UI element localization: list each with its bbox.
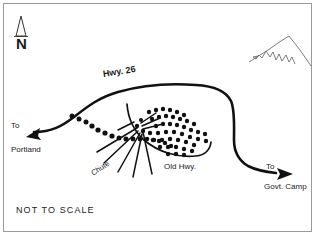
highway-26-road: [34, 84, 276, 173]
dotted-cluster-center: [135, 107, 208, 157]
to-govt-camp-prefix-label: To: [266, 163, 274, 171]
scale-note-label: NOT TO SCALE: [16, 206, 95, 215]
map-drawing-canvas: [0, 0, 318, 239]
to-portland-prefix-label: To: [11, 122, 19, 130]
north-arrow-icon: [14, 16, 28, 37]
compass-label: N: [16, 36, 27, 51]
arrow-west-portland: [26, 128, 41, 140]
arrow-east-govt-camp: [277, 168, 293, 180]
portland-destination-label: Portland: [11, 146, 41, 154]
old-highway-label: Old Hwy.: [164, 163, 196, 171]
mountain-icon: [249, 36, 311, 66]
govt-camp-destination-label: Govt. Camp: [264, 183, 307, 191]
